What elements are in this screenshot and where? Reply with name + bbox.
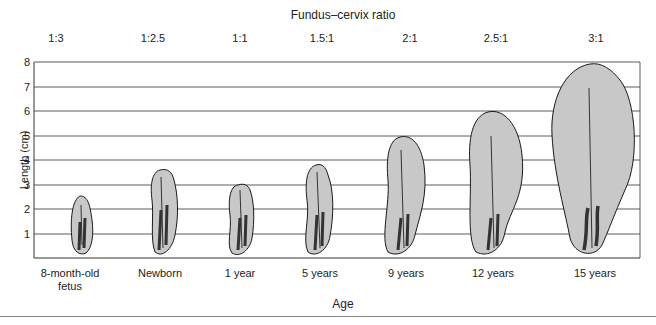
age-label: 1 year [225,267,256,280]
bottom-rule [0,316,656,317]
uterus-5-years [306,164,333,254]
uterus-12-years [470,111,523,254]
age-label: 15 years [574,267,616,280]
age-label: 5 years [302,267,338,280]
y-tick: 7 [24,81,30,93]
y-tick: 1 [24,228,30,240]
age-label: Newborn [138,267,182,280]
age-label: 9 years [388,267,424,280]
x-axis-title: Age [15,297,656,311]
age-label: 8-month-old fetus [41,267,100,293]
age-label: 12 years [472,267,514,280]
gridlines [34,62,640,234]
y-tick: 6 [24,105,30,117]
uterus-15-years [552,64,635,254]
uterus-newborn [151,169,177,254]
uterus-1-year [229,184,253,254]
y-axis-title: Length (cm) [18,130,30,190]
uterus-fetus [71,196,92,254]
uterus-9-years [385,137,425,254]
y-tick: 8 [24,56,30,68]
y-tick: 2 [24,203,30,215]
